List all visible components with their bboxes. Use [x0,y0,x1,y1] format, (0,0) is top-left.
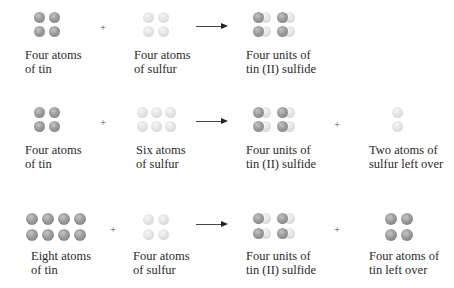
tin-sulfide-unit [253,107,271,118]
tin-atom [401,213,413,225]
tin-atom [42,213,54,225]
product-label: Four units of tin (II) sulfide [246,143,316,171]
label-line: tin (II) sulfide [246,157,316,171]
label-line: Six atoms [136,143,186,157]
tin-atom [34,121,45,132]
label-line: Four units of [246,249,316,263]
reactant2-label: Four atoms of sulfur [133,249,190,277]
label-line: Four atoms [134,48,191,62]
plus-sign: + [334,223,340,235]
tin-sulfide-unit [253,213,271,224]
label-line: sulfur left over [369,157,443,171]
sulfur-atom [151,121,162,132]
tin-sulfide-unit [253,12,271,23]
reactant1-label: Four atoms of tin [25,48,82,76]
reaction-arrow-icon [196,121,226,122]
sulfur-atom [143,229,154,240]
tin-atom [34,12,45,23]
sulfur-atom [158,229,169,240]
tin-atom [58,213,70,225]
reactant1-label: Four atoms of tin [25,143,82,171]
sulfur-atom [158,214,169,225]
tin-atoms-4 [34,107,60,132]
tin-sulfide-unit [277,26,295,37]
label-line: tin (II) sulfide [246,62,316,76]
reaction-arrow-icon [196,26,226,27]
plus-sign: + [110,223,116,235]
label-line: Four atoms [25,48,82,62]
sulfur-atom [158,12,169,23]
tin-sulfide-unit [277,228,295,239]
tin-atoms-8 [26,213,86,241]
tin-sulfide-units-4 [253,107,295,132]
label-line: of sulfur [136,157,186,171]
sulfur-atom [143,26,154,37]
label-line: tin left over [369,263,439,277]
product-label: Four units of tin (II) sulfide [246,249,316,277]
tin-atom [49,12,60,23]
sulfur-atoms-4 [143,214,169,240]
leftover-label: Four atoms of tin left over [369,249,439,277]
sulfur-atoms-leftover-2 [392,107,403,132]
sulfur-atom [392,107,403,118]
tin-sulfide-unit [277,121,295,132]
sulfur-atoms-4 [143,12,169,37]
sulfur-atom [165,107,176,118]
reactant1-label: Eight atoms of tin [31,249,91,277]
label-line: tin (II) sulfide [246,263,316,277]
tin-sulfide-unit [277,12,295,23]
tin-sulfide-units-4 [253,213,295,239]
label-line: of tin [25,62,82,76]
sulfur-atoms-6 [137,107,176,132]
tin-sulfide-units-4 [253,12,295,37]
tin-atom [49,26,60,37]
tin-sulfide-unit [253,121,271,132]
tin-atom [74,213,86,225]
tin-atoms-leftover-4 [385,213,413,241]
label-line: Four units of [246,143,316,157]
label-line: of sulfur [134,62,191,76]
sulfur-atom [392,121,403,132]
label-line: Eight atoms [31,249,91,263]
reactant2-label: Six atoms of sulfur [136,143,186,171]
tin-sulfide-unit [277,213,295,224]
label-line: of tin [31,263,91,277]
label-line: of tin [25,157,82,171]
reactant2-label: Four atoms of sulfur [134,48,191,76]
reaction-arrow-icon [196,224,226,225]
tin-atom [74,229,86,241]
plus-sign: + [334,118,340,130]
sulfur-atom [151,107,162,118]
tin-atom [26,229,38,241]
sulfur-atom [137,121,148,132]
plus-sign: + [100,21,106,33]
label-line: Four atoms [25,143,82,157]
tin-atom [58,229,70,241]
sulfur-atom [158,26,169,37]
plus-sign: + [100,116,106,128]
tin-atom [385,229,397,241]
leftover-label: Two atoms of sulfur left over [369,143,443,171]
tin-atom [49,121,60,132]
tin-atom [42,229,54,241]
tin-atom [34,107,45,118]
sulfur-atom [143,12,154,23]
tin-atom [34,26,45,37]
label-line: Four atoms of [369,249,439,263]
tin-sulfide-unit [253,26,271,37]
label-line: Two atoms of [369,143,443,157]
tin-atom [26,213,38,225]
label-line: Four atoms [133,249,190,263]
sulfur-atom [165,121,176,132]
tin-atom [385,213,397,225]
sulfur-atom [143,214,154,225]
tin-atom [401,229,413,241]
tin-sulfide-unit [277,107,295,118]
sulfur-atom [137,107,148,118]
label-line: Four units of [246,48,316,62]
tin-atoms-4 [34,12,60,37]
label-line: of sulfur [133,263,190,277]
tin-sulfide-unit [253,228,271,239]
tin-atom [49,107,60,118]
product-label: Four units of tin (II) sulfide [246,48,316,76]
